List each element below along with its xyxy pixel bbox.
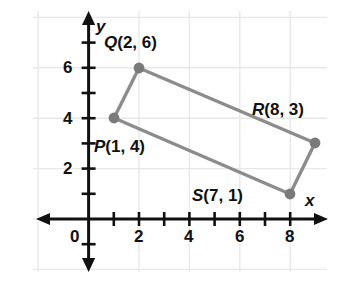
coordinate-plane-figure: Q(2, 6) R(8, 3) P(1, 4) S(7, 1) y x 0 2 … — [0, 0, 349, 286]
point-coords-p: (1, 4) — [105, 137, 145, 156]
y-tick-label-4: 4 — [63, 110, 72, 127]
point-letter-s: S — [192, 186, 203, 205]
point-letter-q: Q — [104, 33, 117, 52]
point-coords-q: (2, 6) — [117, 33, 157, 52]
point-label-p: P(1, 4) — [94, 138, 145, 155]
vertex-point-p — [109, 113, 120, 124]
axes — [44, 20, 320, 264]
point-coords-r: (8, 3) — [264, 100, 304, 119]
y-axis-label: y — [96, 18, 105, 35]
vertex-point-s — [285, 189, 296, 200]
x-axis-arrow-right — [314, 213, 328, 225]
point-letter-p: P — [94, 137, 105, 156]
y-tick-label-6: 6 — [63, 59, 72, 76]
x-tick-label-8: 8 — [285, 228, 294, 245]
x-axis-label: x — [305, 192, 314, 209]
x-tick-label-6: 6 — [235, 228, 244, 245]
point-label-r: R(8, 3) — [252, 101, 304, 118]
coordinate-plane-svg — [0, 0, 349, 286]
point-label-q: Q(2, 6) — [104, 34, 157, 51]
origin-label: 0 — [70, 228, 79, 245]
quadrilateral-pqrs — [114, 68, 315, 194]
point-letter-r: R — [252, 100, 264, 119]
point-label-s: S(7, 1) — [192, 187, 243, 204]
point-coords-s: (7, 1) — [203, 186, 243, 205]
y-tick-label-2: 2 — [63, 160, 72, 177]
x-tick-label-4: 4 — [184, 228, 193, 245]
vertex-point-q — [134, 63, 145, 74]
vertex-point-r — [310, 138, 321, 149]
x-tick-label-2: 2 — [134, 228, 143, 245]
